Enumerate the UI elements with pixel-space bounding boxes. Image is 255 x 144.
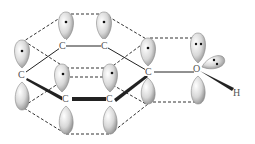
lobe-o-top: [191, 33, 206, 63]
phenol-orbital-diagram: C C C C C C O H: [0, 0, 255, 144]
lobe-c5-top: [55, 64, 70, 92]
lobe-c6-top: [103, 64, 118, 92]
lobe-c2-top: [97, 12, 112, 40]
atom-h: H: [233, 87, 240, 98]
atom-c1: C: [59, 40, 66, 51]
lobe-c1-top: [59, 12, 74, 40]
atom-c6: C: [106, 93, 113, 104]
lobe-c3-bottom: [15, 82, 29, 110]
atom-c2: C: [101, 40, 108, 51]
lobe-o-side: [202, 56, 225, 69]
atom-c5: C: [62, 93, 69, 104]
lobe-c4-bottom: [141, 78, 155, 104]
atom-c3: C: [18, 69, 25, 80]
lobe-c4-top: [141, 38, 156, 66]
atom-o: O: [193, 63, 200, 74]
lobe-c5-bottom: [59, 106, 73, 134]
lobe-o-bottom: [191, 76, 205, 104]
atom-c4: C: [145, 66, 152, 77]
lobe-c3-top: [15, 40, 30, 68]
lobe-c6-bottom: [103, 106, 117, 134]
upper-lobes: [15, 12, 225, 92]
